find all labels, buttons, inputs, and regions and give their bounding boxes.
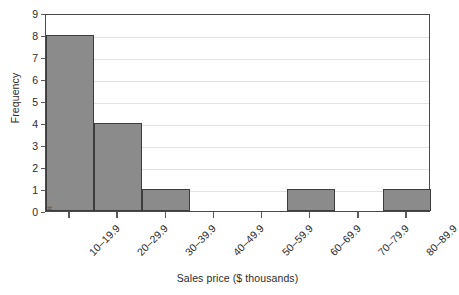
x-tick-label: 70–79.9 (375, 222, 411, 258)
histogram-bar (94, 123, 142, 211)
x-tick-label: 80–89.9 (423, 222, 459, 258)
bars-layer (46, 15, 429, 211)
x-tick-label: 50–59.9 (279, 222, 315, 258)
x-tick-label: 20–29.9 (135, 222, 171, 258)
y-tick-label: 8 (8, 31, 38, 41)
y-tick-label: 5 (8, 97, 38, 107)
plot-area (45, 14, 430, 212)
x-tick-label: 40–49.9 (231, 222, 267, 258)
y-tick-label: 7 (8, 53, 38, 63)
x-axis-title: Sales price ($ thousands) (45, 272, 430, 284)
y-tick-label: 2 (8, 163, 38, 173)
histogram-bar (46, 35, 94, 211)
x-tick-label: 30–39.9 (183, 222, 219, 258)
y-tick-label: 6 (8, 75, 38, 85)
x-axis-labels: 10–19.920–29.930–39.940–49.950–59.960–69… (45, 212, 430, 272)
x-tick-label: 10–19.9 (86, 222, 122, 258)
histogram-bar (142, 189, 190, 211)
histogram-bar (383, 189, 431, 211)
y-tick-label: 0 (8, 207, 38, 217)
y-axis: 0123456789 (0, 0, 45, 295)
y-tick-label: 4 (8, 119, 38, 129)
histogram-bar (287, 189, 335, 211)
y-tick-label: 1 (8, 185, 38, 195)
y-tick-label: 9 (8, 9, 38, 19)
x-tick-label: 60–69.9 (327, 222, 363, 258)
origin-artifact-mark: # (47, 205, 52, 214)
y-tick-label: 3 (8, 141, 38, 151)
